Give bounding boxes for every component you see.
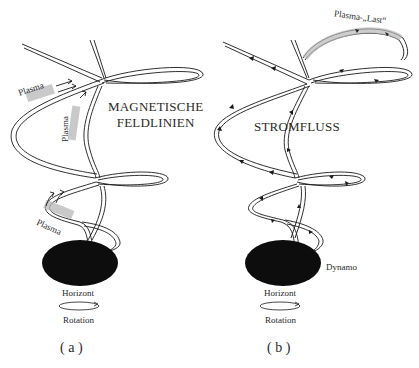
rotation-arrow-icon	[260, 302, 300, 310]
helix-field-lines-drawing	[0, 0, 210, 368]
panel-a-magnetic-field-lines: MAGNETISCHE FELDLINIEN Plasma Plasma Pla…	[0, 0, 210, 368]
label-rotation: Rotation	[63, 315, 94, 325]
label-current-flow: STROMFLUSS	[254, 119, 340, 135]
label-magnetic-field-lines: MAGNETISCHE FELDLINIEN	[108, 99, 203, 131]
caption-b: ( b )	[267, 340, 290, 356]
label-rotation: Rotation	[265, 315, 296, 325]
label-horizon: Horizont	[264, 288, 296, 298]
rotation-arrow-icon	[59, 302, 99, 310]
title-line-2: FELDLINIEN	[108, 115, 203, 131]
panel-b-current-flow: STROMFLUSS Plasma-„Last“ Dynamo Horizont…	[209, 0, 419, 368]
title-line-1: MAGNETISCHE	[108, 99, 203, 115]
helix-current-flow-drawing	[209, 0, 419, 368]
label-plasma-2: Plasma	[60, 116, 70, 142]
black-hole-body	[42, 240, 118, 286]
caption-a: ( a )	[60, 340, 83, 356]
black-hole-body	[245, 240, 321, 286]
label-horizon: Horizont	[62, 288, 94, 298]
label-dynamo: Dynamo	[326, 262, 357, 272]
